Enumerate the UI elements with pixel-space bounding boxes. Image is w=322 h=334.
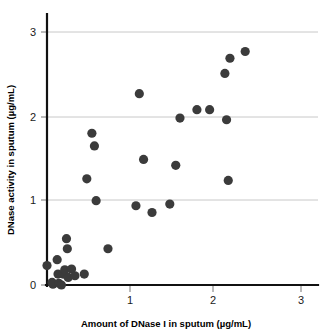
data-point bbox=[171, 161, 180, 170]
ytick-label-1: 1 bbox=[30, 194, 36, 206]
data-point bbox=[220, 69, 229, 78]
data-point bbox=[80, 269, 89, 278]
data-point bbox=[139, 155, 148, 164]
data-point bbox=[90, 141, 99, 150]
data-point bbox=[87, 129, 96, 138]
y-tick-labels: 3 2 1 0 bbox=[30, 26, 36, 291]
data-point bbox=[63, 244, 72, 253]
data-point bbox=[57, 280, 66, 289]
data-point bbox=[131, 201, 140, 210]
ytick-label-3: 3 bbox=[30, 26, 36, 38]
data-point bbox=[147, 208, 156, 217]
xtick-label-1: 1 bbox=[127, 294, 133, 306]
scatter-plot-svg: 3 2 1 0 1 2 3 Amount of DNase I in sputu… bbox=[0, 0, 322, 334]
data-point bbox=[175, 113, 184, 122]
ytick-label-0: 0 bbox=[30, 279, 36, 291]
data-point bbox=[53, 255, 62, 264]
data-point bbox=[165, 199, 174, 208]
data-point bbox=[92, 196, 101, 205]
data-point bbox=[103, 244, 112, 253]
xtick-label-2: 2 bbox=[210, 294, 216, 306]
data-point-group bbox=[42, 47, 249, 290]
x-tick-labels: 1 2 3 bbox=[127, 294, 304, 306]
data-point bbox=[225, 54, 234, 63]
x-axis-title: Amount of DNase I in sputum (µg/mL) bbox=[81, 318, 251, 329]
axes bbox=[46, 14, 318, 286]
xtick-label-3: 3 bbox=[298, 294, 304, 306]
ytick-label-2: 2 bbox=[30, 111, 36, 123]
data-point bbox=[62, 234, 71, 243]
tick-marks bbox=[41, 32, 301, 292]
data-point bbox=[241, 47, 250, 56]
data-point bbox=[42, 261, 51, 270]
data-point bbox=[222, 115, 231, 124]
data-point bbox=[70, 271, 79, 280]
data-point bbox=[135, 89, 144, 98]
data-point bbox=[192, 105, 201, 114]
data-point bbox=[82, 174, 91, 183]
data-point bbox=[224, 176, 233, 185]
data-point bbox=[205, 105, 214, 114]
scatter-chart-figure: 3 2 1 0 1 2 3 Amount of DNase I in sputu… bbox=[0, 0, 322, 334]
y-axis-title: DNase activity in sputum (µg/mL) bbox=[5, 85, 16, 235]
